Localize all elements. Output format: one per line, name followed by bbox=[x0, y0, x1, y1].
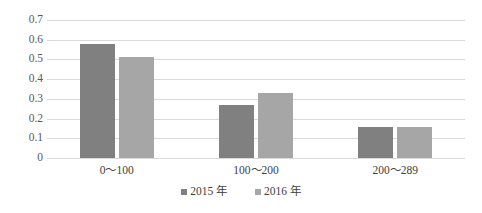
gridline bbox=[47, 158, 465, 159]
y-axis: 00.10.20.30.40.50.60.7 bbox=[0, 20, 43, 158]
bar-group bbox=[80, 20, 154, 158]
y-axis-tick-label: 0.6 bbox=[5, 34, 43, 46]
x-axis-tick-label: 200～289 bbox=[373, 161, 419, 179]
legend-item[interactable]: 2016 年 bbox=[255, 186, 301, 198]
bar bbox=[219, 105, 254, 158]
y-axis-tick-label: 0.2 bbox=[5, 113, 43, 125]
x-axis-tick-label: 0～100 bbox=[100, 161, 134, 179]
legend-swatch-icon bbox=[255, 189, 261, 195]
bar-group bbox=[358, 20, 432, 158]
bar bbox=[119, 57, 154, 158]
legend-swatch-icon bbox=[181, 189, 187, 195]
x-axis-tick-label: 100～200 bbox=[233, 161, 279, 179]
bar bbox=[80, 44, 115, 158]
legend-label: 2016 年 bbox=[264, 186, 301, 198]
y-axis-tick-label: 0.1 bbox=[5, 133, 43, 145]
bar bbox=[358, 127, 393, 158]
y-axis-tick-label: 0.5 bbox=[5, 54, 43, 66]
bar bbox=[258, 93, 293, 158]
legend-item[interactable]: 2015 年 bbox=[181, 186, 227, 198]
bar-chart: 00.10.20.30.40.50.60.7 0～100100～200200～2… bbox=[0, 0, 482, 213]
bar bbox=[397, 127, 432, 158]
y-axis-tick-label: 0 bbox=[5, 152, 43, 164]
chart-legend: 2015 年2016 年 bbox=[0, 186, 482, 198]
bar-group bbox=[219, 20, 293, 158]
y-axis-tick-label: 0.3 bbox=[5, 93, 43, 105]
legend-label: 2015 年 bbox=[190, 186, 227, 198]
bars-layer bbox=[47, 20, 465, 158]
y-axis-tick-label: 0.4 bbox=[5, 73, 43, 85]
y-axis-tick-label: 0.7 bbox=[5, 14, 43, 26]
x-axis: 0～100100～200200～289 bbox=[47, 161, 465, 181]
